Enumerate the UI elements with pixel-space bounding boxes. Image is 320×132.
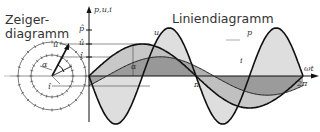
i-curve-label: i: [240, 56, 243, 65]
phasor-title-line2: diagramm: [5, 27, 69, 40]
u-curve-label: u: [154, 28, 159, 37]
alpha-label: α: [131, 62, 136, 71]
x-axis-arrow-icon: [311, 74, 319, 79]
y-axis-arrow-icon: [87, 6, 92, 13]
diagram-canvas: Zeiger- diagramm Liniendiagramm p,u,i p̂…: [0, 0, 320, 132]
pi-tick: π: [194, 80, 199, 89]
i-hat-tick: î: [80, 51, 83, 60]
line-diagram-title: Liniendiagramm: [172, 12, 274, 25]
p-hat-tick: p̂: [79, 24, 84, 33]
phasor-u-label: û: [53, 40, 58, 49]
two-pi-tick: 2π: [297, 79, 307, 88]
x-axis-label: ωt: [304, 64, 314, 73]
p-curve-label: p: [247, 28, 252, 37]
phasor-i-label: î: [48, 82, 51, 91]
phasor-alpha-label: α: [42, 60, 47, 69]
u-hat-tick: û: [79, 38, 84, 47]
y-axis-label: p,u,i: [94, 5, 112, 14]
phasor-title-line1: Zeiger-: [5, 13, 49, 26]
